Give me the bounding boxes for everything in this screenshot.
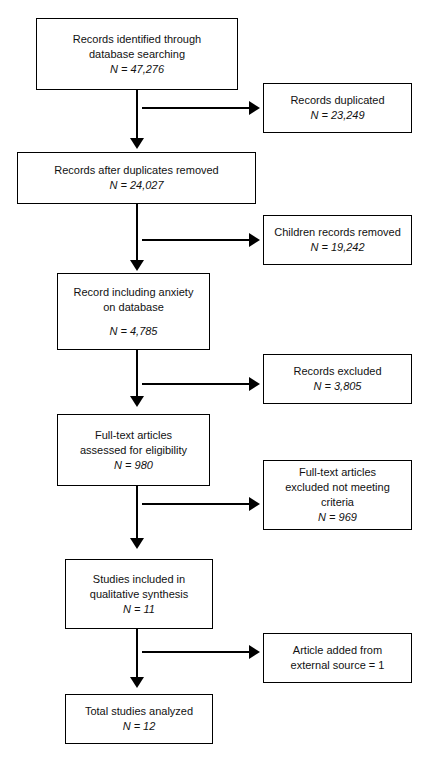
node-records-including-anxiety: Record including anxiety on database N =… bbox=[57, 273, 210, 350]
node-line: Records identified through bbox=[73, 32, 201, 47]
node-count: N = 47,276 bbox=[110, 62, 164, 77]
arrowhead-down-icon bbox=[130, 538, 144, 549]
node-fulltext-assessed: Full-text articles assessed for eligibil… bbox=[57, 414, 210, 486]
node-line: Full-text articles bbox=[95, 428, 172, 443]
arrowhead-right-icon bbox=[249, 233, 260, 247]
node-line: Records after duplicates removed bbox=[54, 163, 218, 178]
node-records-after-duplicates: Records after duplicates removed N = 24,… bbox=[17, 152, 256, 204]
node-line: Records excluded bbox=[293, 364, 381, 379]
arrowhead-right-icon bbox=[249, 645, 260, 659]
prisma-flow-diagram: Records identified through database sear… bbox=[0, 0, 437, 758]
node-count: N = 969 bbox=[318, 510, 357, 525]
arrowhead-down-icon bbox=[130, 260, 144, 271]
node-count: N = 23,249 bbox=[310, 108, 364, 123]
node-count: N = 12 bbox=[123, 719, 156, 734]
node-line: Full-text articles bbox=[299, 465, 376, 480]
node-line: database searching bbox=[89, 47, 185, 62]
node-line: Record including anxiety bbox=[74, 285, 194, 300]
node-count: N = 4,785 bbox=[109, 324, 157, 339]
arrowhead-down-icon bbox=[130, 396, 144, 407]
node-total-studies: Total studies analyzed N = 12 bbox=[65, 694, 213, 744]
node-fulltext-excluded: Full-text articles excluded not meeting … bbox=[263, 460, 412, 530]
node-line: Studies included in bbox=[93, 572, 185, 587]
connector-horizontal bbox=[142, 651, 250, 653]
connector-horizontal bbox=[142, 383, 250, 385]
node-article-added-external: Article added from external source = 1 bbox=[263, 633, 412, 683]
node-line: assessed for eligibility bbox=[80, 443, 187, 458]
arrowhead-right-icon bbox=[249, 377, 260, 391]
node-line: qualitative synthesis bbox=[90, 587, 188, 602]
connector-vertical bbox=[136, 90, 138, 140]
connector-horizontal bbox=[142, 503, 250, 505]
node-count: N = 980 bbox=[114, 458, 153, 473]
connector-vertical bbox=[136, 350, 138, 398]
arrowhead-right-icon bbox=[249, 497, 260, 511]
arrowhead-down-icon bbox=[130, 138, 144, 149]
node-line: Article added from bbox=[293, 643, 382, 658]
node-children-records-removed: Children records removed N = 19,242 bbox=[263, 215, 412, 265]
node-records-identified: Records identified through database sear… bbox=[36, 18, 238, 90]
connector-horizontal bbox=[142, 239, 250, 241]
node-line: criteria bbox=[321, 495, 354, 510]
node-line: on database bbox=[103, 300, 164, 315]
node-records-excluded: Records excluded N = 3,805 bbox=[263, 354, 412, 404]
arrowhead-down-icon bbox=[130, 677, 144, 688]
node-records-duplicated: Records duplicated N = 23,249 bbox=[263, 83, 412, 133]
node-line: Total studies analyzed bbox=[85, 704, 193, 719]
node-line: excluded not meeting bbox=[285, 480, 390, 495]
node-count: N = 11 bbox=[123, 602, 155, 617]
connector-vertical bbox=[136, 486, 138, 540]
node-count: N = 3,805 bbox=[313, 379, 361, 394]
arrowhead-right-icon bbox=[249, 101, 260, 115]
node-line: Records duplicated bbox=[290, 93, 384, 108]
node-line: Children records removed bbox=[274, 225, 401, 240]
connector-vertical bbox=[136, 204, 138, 262]
node-count: N = 19,242 bbox=[310, 240, 364, 255]
node-studies-included: Studies included in qualitative synthesi… bbox=[65, 559, 213, 629]
connector-horizontal bbox=[142, 107, 250, 109]
node-line: external source = 1 bbox=[291, 658, 385, 673]
node-count: N = 24,027 bbox=[109, 178, 163, 193]
connector-vertical bbox=[136, 629, 138, 679]
